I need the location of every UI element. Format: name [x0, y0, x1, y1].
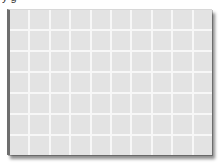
grid-cell	[51, 136, 69, 155]
grid-pattern	[10, 10, 212, 155]
grid-cell	[173, 52, 191, 71]
grid-frame	[7, 9, 212, 155]
grid-cell	[194, 115, 212, 134]
grid-cell	[92, 52, 110, 71]
grid-cell	[71, 52, 89, 71]
grid-cell	[153, 73, 171, 92]
grid-cell	[173, 10, 191, 29]
grid-cell	[132, 10, 150, 29]
grid-cell	[51, 31, 69, 50]
grid-cell	[10, 31, 28, 50]
grid-cell	[71, 10, 89, 29]
grid-cell	[153, 52, 171, 71]
grid-cell	[51, 94, 69, 113]
grid-cell	[194, 94, 212, 113]
grid-cell	[153, 94, 171, 113]
grid-cell	[173, 31, 191, 50]
grid-cell	[173, 73, 191, 92]
grid-cell	[92, 73, 110, 92]
grid-cell	[132, 31, 150, 50]
grid-cell	[10, 73, 28, 92]
grid-cell	[10, 52, 28, 71]
grid-cell	[71, 73, 89, 92]
grid-cell	[132, 136, 150, 155]
grid-cell	[30, 136, 48, 155]
grid-cell	[112, 31, 130, 50]
grid-cell	[112, 10, 130, 29]
grid-cell	[194, 73, 212, 92]
grid-cell	[112, 94, 130, 113]
grid-cell	[173, 115, 191, 134]
grid-cell	[30, 94, 48, 113]
grid-cell	[71, 115, 89, 134]
grid-cell	[153, 31, 171, 50]
grid-cell	[132, 73, 150, 92]
grid-cell	[92, 94, 110, 113]
grid-cell	[51, 52, 69, 71]
grid-cell	[10, 136, 28, 155]
grid-cell	[153, 136, 171, 155]
grid-cell	[112, 115, 130, 134]
grid-cell	[71, 136, 89, 155]
grid-cell	[92, 136, 110, 155]
grid-cell	[30, 73, 48, 92]
grid-cell	[173, 136, 191, 155]
grid-cell	[51, 10, 69, 29]
grid-cell	[132, 94, 150, 113]
grid-cell	[173, 94, 191, 113]
grid-cell	[194, 10, 212, 29]
grid-cell	[92, 31, 110, 50]
grid-cell	[51, 115, 69, 134]
grid-cell	[30, 52, 48, 71]
grid-cell	[30, 115, 48, 134]
grid-cell	[92, 10, 110, 29]
grid-cell	[194, 136, 212, 155]
grid-cell	[153, 10, 171, 29]
grid-cell	[194, 52, 212, 71]
grid-cell	[30, 10, 48, 29]
grid-cell	[112, 136, 130, 155]
grid-cell	[10, 10, 28, 29]
grid-cell	[71, 94, 89, 113]
grid-cell	[10, 115, 28, 134]
grid-cell	[51, 73, 69, 92]
grid-cell	[92, 115, 110, 134]
grid-cell	[71, 31, 89, 50]
grid-cell	[112, 73, 130, 92]
grid-cell	[153, 115, 171, 134]
grid-cell	[194, 31, 212, 50]
grid-cell	[112, 52, 130, 71]
grid-cell	[132, 52, 150, 71]
grid-cell	[132, 115, 150, 134]
clipped-caption-text: y g	[2, 0, 216, 5]
grid-cell	[30, 31, 48, 50]
grid-cell	[10, 94, 28, 113]
